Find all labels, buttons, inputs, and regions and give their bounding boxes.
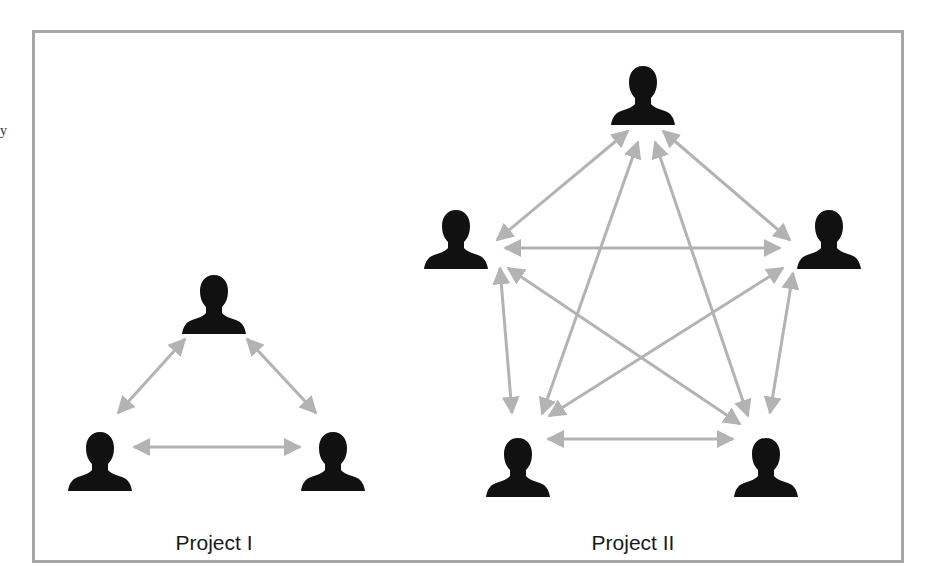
person-silhouette-icon xyxy=(611,66,675,125)
bidirectional-arrow-icon xyxy=(118,339,185,413)
person-silhouette-icon xyxy=(486,438,550,497)
person-silhouette-icon xyxy=(734,438,798,497)
nodes xyxy=(68,66,861,497)
person-silhouette-icon xyxy=(301,432,365,491)
project-1-edges xyxy=(118,339,316,447)
project-2-edges xyxy=(497,131,793,439)
bidirectional-arrow-icon xyxy=(247,339,316,413)
project-2-label: Project II xyxy=(592,531,675,555)
bidirectional-arrow-icon xyxy=(770,273,793,413)
person-silhouette-icon xyxy=(424,210,488,269)
bidirectional-arrow-icon xyxy=(549,268,783,416)
person-silhouette-icon xyxy=(182,275,246,334)
project-2-members xyxy=(424,66,861,497)
person-silhouette-icon xyxy=(68,432,132,491)
team-communication-diagram xyxy=(0,0,929,588)
project-1-label: Project I xyxy=(175,531,252,555)
person-silhouette-icon xyxy=(797,210,861,269)
project-1-members xyxy=(68,275,365,491)
bidirectional-arrow-icon xyxy=(500,268,512,413)
bidirectional-arrow-icon xyxy=(542,142,638,414)
